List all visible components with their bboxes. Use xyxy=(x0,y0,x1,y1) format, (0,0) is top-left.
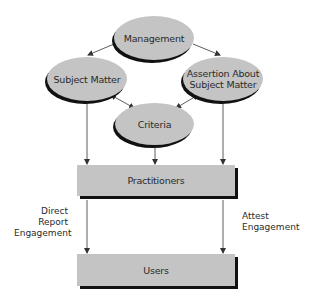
direct-line1: Direct xyxy=(14,206,68,217)
subject-matter-node: Subject Matter xyxy=(47,57,127,101)
arrow-assertion-criteria xyxy=(176,95,198,108)
direct-report-engagement-label: Direct Report Engagement xyxy=(14,206,68,239)
assertion-label-line2: Subject Matter xyxy=(190,79,257,90)
practitioners-box: Practitioners xyxy=(77,165,235,196)
practitioners-label: Practitioners xyxy=(127,175,184,186)
direct-line3: Engagement xyxy=(14,228,68,239)
attest-line1: Attest xyxy=(242,211,306,222)
subject-matter-label: Subject Matter xyxy=(54,74,121,85)
users-box: Users xyxy=(77,254,235,286)
arrow-management-to-assertion xyxy=(193,44,220,55)
attest-engagement-label: Attest Engagement xyxy=(242,211,306,233)
attest-line2: Engagement xyxy=(242,222,306,233)
assertion-node: Assertion About Subject Matter xyxy=(183,57,263,101)
assertion-label-line1: Assertion About xyxy=(187,68,259,79)
criteria-label: Criteria xyxy=(138,119,172,130)
management-label: Management xyxy=(124,33,185,44)
arrow-management-to-subject-matter xyxy=(88,44,114,55)
criteria-node: Criteria xyxy=(115,103,194,145)
management-node: Management xyxy=(114,16,194,60)
users-label: Users xyxy=(143,265,169,276)
direct-line2: Report xyxy=(14,217,68,228)
